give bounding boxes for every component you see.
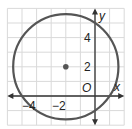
x-axis-label: x xyxy=(113,80,121,94)
origin-label: O xyxy=(82,81,91,95)
y-tick-label: 2 xyxy=(84,60,91,74)
x-tick-label: −2 xyxy=(52,99,66,113)
center-point xyxy=(63,64,69,70)
x-tick-label: −4 xyxy=(22,99,36,113)
y-axis-label: y xyxy=(98,9,106,23)
y-tick-label: 4 xyxy=(84,31,91,45)
coordinate-plane: x y O −4 −2 2 4 xyxy=(0,0,132,129)
